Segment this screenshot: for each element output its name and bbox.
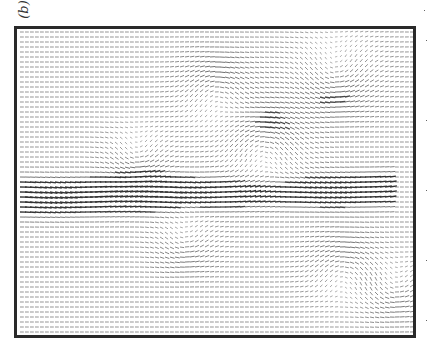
scan-artifact [426,190,427,191]
scan-artifact [426,320,427,321]
vector-field-plot [14,26,416,338]
vector-field [17,29,413,335]
panel-label: (b) [16,0,31,18]
scan-artifact [426,120,427,121]
scan-artifact [424,10,425,11]
scan-artifact [426,260,427,261]
scan-artifact [426,40,427,41]
